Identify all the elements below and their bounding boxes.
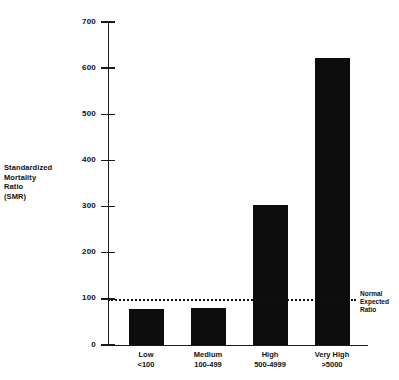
plot-area [108,22,368,345]
normal-expected-ratio-label: NormalExpectedRatio [360,290,389,314]
category-label-name: Very High [297,350,367,360]
bar-low [129,309,164,345]
category-label-medium: Medium100-499 [173,350,243,370]
y-axis-title-line-2: Mortality [4,173,78,183]
y-tick-label: 600 [68,63,96,72]
y-tick-label: 100 [68,293,96,302]
ref-label-line-3: Ratio [360,306,389,314]
category-label-high: High500-4999 [235,350,305,370]
y-tick-label: 400 [68,155,96,164]
bar-high [253,205,288,345]
normal-expected-ratio-line [108,299,356,301]
category-label-name: High [235,350,305,360]
bar-very-high [315,58,350,345]
bar-medium [191,308,226,345]
category-label-name: Medium [173,350,243,360]
y-tick-label: 700 [68,17,96,26]
category-label-low: Low<100 [111,350,181,370]
chart-figure: Standardized Mortality Ratio (SMR) 01002… [0,0,399,380]
category-label-name: Low [111,350,181,360]
y-axis-title-line-4: (SMR) [4,192,78,202]
y-tick-label: 0 [68,340,96,349]
category-label-very-high: Very High>5000 [297,350,367,370]
category-label-range: 500-4999 [235,360,305,370]
category-label-range: >5000 [297,360,367,370]
y-axis-title: Standardized Mortality Ratio (SMR) [4,163,78,201]
y-tick-label: 500 [68,109,96,118]
y-tick-label: 200 [68,247,96,256]
y-axis-title-line-1: Standardized [4,163,78,173]
ref-label-line-2: Expected [360,298,389,306]
y-axis-title-line-3: Ratio [4,182,78,192]
category-label-range: 100-499 [173,360,243,370]
y-tick-label: 300 [68,201,96,210]
category-label-range: <100 [111,360,181,370]
ref-label-line-1: Normal [360,290,389,298]
